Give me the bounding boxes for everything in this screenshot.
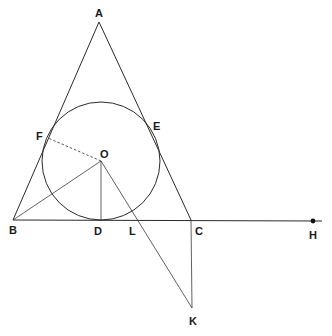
label-o: O	[100, 148, 109, 160]
geometry-diagram: A B C D E F O L H K	[0, 0, 332, 336]
label-l: L	[129, 225, 136, 237]
label-k: K	[189, 315, 197, 327]
segment-ck	[191, 220, 192, 308]
segment-of-dashed	[48, 138, 101, 161]
label-c: C	[195, 225, 203, 237]
label-e: E	[153, 120, 160, 132]
side-ab	[13, 22, 99, 220]
segment-ok	[101, 161, 192, 308]
label-h: H	[309, 229, 317, 241]
label-d: D	[94, 225, 102, 237]
line-bh	[13, 220, 322, 221]
label-a: A	[95, 7, 103, 19]
point-h-dot	[311, 219, 316, 224]
label-f: F	[36, 130, 43, 142]
label-b: B	[9, 224, 17, 236]
